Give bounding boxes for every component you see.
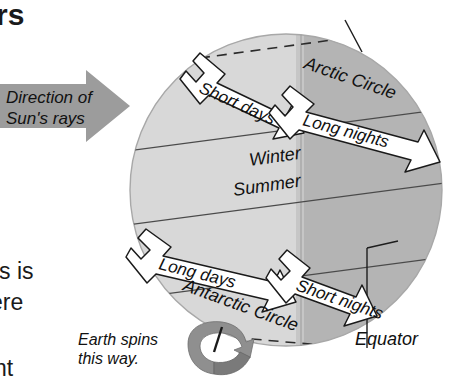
seasons-diagram: Short days Long nights Long days Short n…: [0, 0, 462, 388]
spin-note-line2: this way.: [78, 350, 139, 367]
cropped-text-left-2: ere: [0, 289, 23, 316]
equator-label: Equator: [355, 329, 419, 349]
diagram-canvas: Short days Long nights Long days Short n…: [0, 0, 462, 388]
cropped-text-left-3: nt: [0, 355, 13, 382]
cropped-text-top-left: rs: [0, 0, 24, 32]
spin-arrow-tail: [214, 352, 250, 375]
sun-rays-line2: Sun's rays: [6, 109, 85, 128]
spin-note-line1: Earth spins: [78, 331, 158, 348]
sun-rays-line1: Direction of: [6, 88, 94, 107]
cropped-text-left-1: is is: [0, 258, 34, 285]
